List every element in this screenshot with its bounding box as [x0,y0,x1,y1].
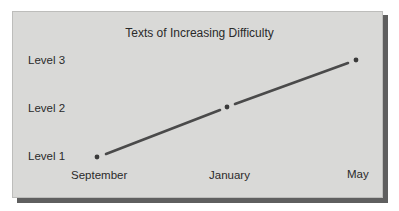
line-segment-jan-may [235,63,348,104]
line-segment-sep-jan [106,110,220,154]
data-point-may [354,58,359,63]
data-point-january [225,105,230,110]
data-point-september [95,155,100,160]
plot-area [0,0,399,211]
